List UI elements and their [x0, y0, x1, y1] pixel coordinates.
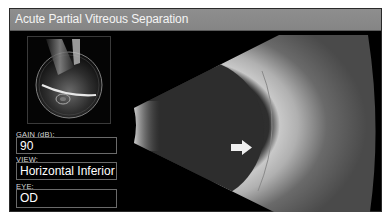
gain-value: 90: [16, 137, 117, 154]
ultrasound-b-scan: [124, 31, 382, 212]
eye-probe-icon: [28, 37, 110, 123]
probe-position-diagram: [27, 36, 111, 124]
view-value: Horizontal Inferior: [16, 162, 117, 180]
ultrasound-window: Acute Partial Vitreous Separation: [9, 8, 382, 212]
title-bar: Acute Partial Vitreous Separation: [10, 9, 381, 31]
window-title: Acute Partial Vitreous Separation: [15, 12, 188, 26]
eye-value: OD: [16, 189, 117, 208]
